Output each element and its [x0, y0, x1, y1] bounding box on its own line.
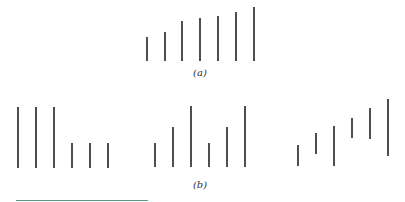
- footer-divider: [16, 200, 148, 201]
- panel-a-label: (a): [193, 67, 207, 78]
- panel-b-group-3: [298, 99, 388, 166]
- panel-b-group-1: [18, 107, 108, 168]
- panel-b-group-2: [155, 106, 245, 167]
- panel-b-label: (b): [193, 179, 207, 190]
- panel-a-lines: [147, 7, 254, 61]
- line-figure: [0, 0, 405, 202]
